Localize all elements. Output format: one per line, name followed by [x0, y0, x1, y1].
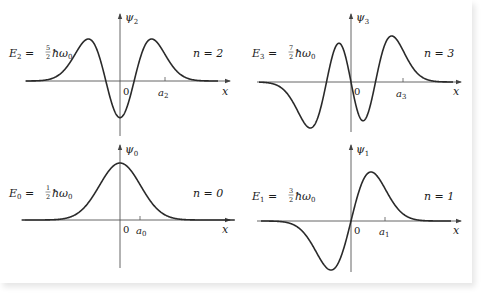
svg-text:1: 1	[46, 184, 50, 192]
panel-n1: ψ1 0 a1 x n = 1 E1 = 3 2 ħω0	[251, 143, 461, 272]
svg-text:E3 =: E3 =	[251, 47, 277, 61]
psi-label: ψ2	[125, 11, 138, 26]
oscillator-figure: ψ2 0 a2 x n = 2 E2 = 5 2 ħω0 ψ3 0 a3 x n…	[0, 0, 482, 300]
panel-n3: ψ3 0 a3 x n = 3 E3 = 7 2 ħω0	[251, 11, 461, 132]
svg-text:E1 =: E1 =	[251, 190, 277, 204]
a-label: a3	[396, 88, 406, 101]
svg-text:3: 3	[289, 187, 293, 195]
svg-text:2: 2	[289, 196, 293, 204]
x-label: x	[222, 223, 229, 236]
a-label: a2	[158, 87, 168, 100]
svg-text:2: 2	[46, 53, 50, 61]
svg-text:2: 2	[46, 193, 50, 201]
psi-label: ψ3	[356, 11, 369, 26]
svg-text:E0 =: E0 =	[8, 187, 34, 201]
energy-label: E0 = 1 2 ħω0	[8, 184, 73, 201]
svg-text:7: 7	[289, 44, 293, 52]
svg-text:ħω0: ħω0	[52, 47, 73, 61]
a-label: a1	[379, 226, 389, 239]
x-label: x	[222, 85, 229, 98]
energy-label: E3 = 7 2 ħω0	[251, 44, 316, 61]
svg-text:ħω0: ħω0	[295, 190, 316, 204]
origin-label: 0	[354, 86, 360, 97]
x-label: x	[453, 85, 460, 98]
panel-n2: ψ2 0 a2 x n = 2 E2 = 5 2 ħω0	[8, 11, 230, 136]
svg-text:E2 =: E2 =	[8, 47, 34, 61]
n-label: n = 0	[193, 187, 223, 200]
svg-text:5: 5	[46, 44, 50, 52]
a-label: a0	[136, 225, 146, 238]
energy-label: E2 = 5 2 ħω0	[8, 44, 73, 61]
origin-label: 0	[123, 224, 129, 235]
n-label: n = 2	[193, 47, 223, 60]
origin-label: 0	[123, 86, 129, 97]
svg-text:ħω0: ħω0	[295, 47, 316, 61]
energy-label: E1 = 3 2 ħω0	[251, 187, 316, 204]
panel-n0: ψ0 0 a0 x n = 0 E0 = 1 2 ħω0	[8, 143, 235, 268]
svg-text:ħω0: ħω0	[52, 187, 73, 201]
svg-text:2: 2	[289, 53, 293, 61]
psi-label: ψ0	[125, 143, 138, 158]
psi-label: ψ1	[356, 143, 369, 158]
origin-label: 0	[354, 225, 360, 236]
x-label: x	[453, 224, 460, 237]
n-label: n = 1	[424, 190, 454, 203]
n-label: n = 3	[424, 47, 454, 60]
